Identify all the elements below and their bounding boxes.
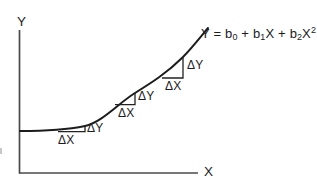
- equation-part: Y = b: [201, 26, 232, 41]
- equation-superscript-2: 2: [311, 25, 316, 35]
- figure-canvas: Y X Y = b0 + b1X + b2X2 ΔX ΔY ΔX ΔY ΔX Δ…: [0, 0, 317, 186]
- x-axis-label: X: [204, 165, 213, 179]
- delta-x-label-1: ΔX: [58, 134, 74, 146]
- equation-part: + b: [238, 26, 261, 41]
- y-axis-label: Y: [17, 15, 26, 29]
- delta-y-label-2: ΔY: [138, 90, 154, 102]
- equation-part: X + b: [265, 26, 297, 41]
- delta-x-label-2: ΔX: [118, 107, 134, 119]
- equation-part: X: [302, 26, 311, 41]
- delta-y-label-3: ΔY: [187, 59, 203, 71]
- delta-x-label-3: ΔX: [165, 80, 181, 92]
- equation-label: Y = b0 + b1X + b2X2: [201, 26, 316, 42]
- delta-y-label-1: ΔY: [87, 122, 103, 134]
- scan-artifact: [0, 148, 2, 154]
